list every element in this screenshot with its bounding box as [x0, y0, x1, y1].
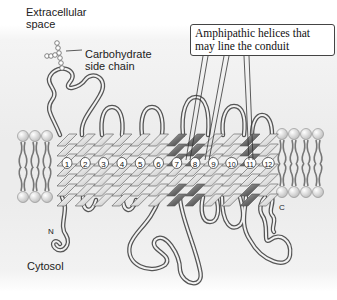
helix-number-label: 5 [138, 160, 143, 169]
helix-10: 10 [222, 134, 242, 206]
helix-number-label: 8 [193, 160, 198, 169]
helix-number-label: 10 [228, 161, 236, 168]
lipid-bilayer-left [18, 131, 53, 203]
extracellular-space-label: Extracellular space [26, 6, 86, 30]
helix-number-label: 9 [211, 160, 216, 169]
helix-number-label: 3 [101, 160, 106, 169]
amphipathic-helices-callout: Amphipathic helices that may line the co… [190, 24, 335, 56]
transmembrane-helices: 123456789101112 [57, 134, 278, 206]
carbohydrate-side-chain [45, 41, 65, 71]
helix-6: 6 [149, 134, 169, 206]
helix-3: 3 [94, 134, 114, 206]
helix-number-label: 6 [156, 160, 161, 169]
helix-11: 11 [240, 134, 260, 206]
helix-9: 9 [203, 134, 223, 206]
caption-strip [0, 288, 337, 300]
helix-number-label: 7 [175, 160, 180, 169]
n-terminus-label: N [48, 226, 54, 238]
helix-12: 12 [258, 134, 278, 206]
cytosol-label: Cytosol [27, 260, 64, 272]
lipid-bilayer-right [277, 129, 324, 198]
helix-number-label: 2 [83, 160, 88, 169]
helix-7: 7 [167, 134, 187, 206]
helix-number-label: 4 [120, 160, 125, 169]
helix-number-label: 12 [264, 161, 272, 168]
helix-number-label: 11 [246, 161, 253, 168]
helix-number-label: 1 [65, 160, 70, 169]
helix-5: 5 [130, 134, 150, 206]
helix-1: 1 [57, 134, 77, 206]
c-terminus-label: C [279, 202, 285, 214]
helix-2: 2 [75, 134, 95, 206]
carbohydrate-side-chain-label: Carbohydrate side chain [85, 48, 155, 72]
